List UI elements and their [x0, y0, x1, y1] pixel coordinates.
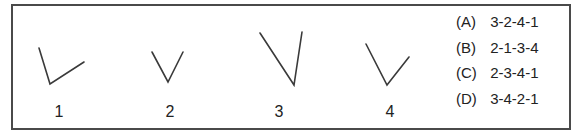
option-b[interactable]: (B) 2-1-3-4: [456, 35, 539, 61]
angle-figure-2: [152, 52, 183, 82]
option-sequence: 3-4-2-1: [490, 90, 538, 107]
figure-label-2: 2: [160, 103, 180, 121]
option-letter: (B): [456, 35, 486, 61]
figure-label-1: 1: [49, 103, 69, 121]
figure-label-3: 3: [269, 103, 289, 121]
option-sequence: 2-3-4-1: [490, 64, 538, 81]
option-sequence: 3-2-4-1: [490, 13, 538, 30]
option-letter: (C): [456, 60, 486, 86]
angle-figure-3: [260, 32, 302, 85]
answer-options: (A) 3-2-4-1 (B) 2-1-3-4 (C) 2-3-4-1 (D) …: [456, 9, 539, 111]
option-letter: (A): [456, 9, 486, 35]
option-a[interactable]: (A) 3-2-4-1: [456, 9, 539, 35]
option-d[interactable]: (D) 3-4-2-1: [456, 86, 539, 112]
figure-label-4: 4: [380, 103, 400, 121]
option-letter: (D): [456, 86, 486, 112]
option-c[interactable]: (C) 2-3-4-1: [456, 60, 539, 86]
option-sequence: 2-1-3-4: [490, 39, 538, 56]
angle-figure-4: [366, 44, 409, 85]
angle-figure-1: [39, 48, 84, 84]
